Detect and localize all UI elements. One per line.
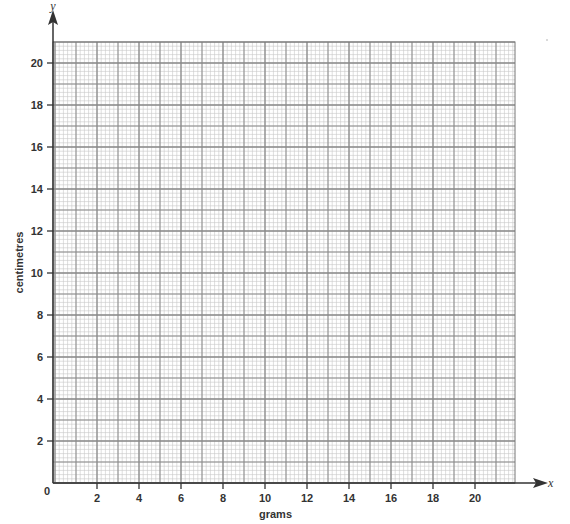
y-axis-letter: y bbox=[49, 0, 56, 13]
y-tick-label: 14 bbox=[31, 183, 44, 195]
x-tick-label: 4 bbox=[136, 492, 143, 504]
origin-label: 0 bbox=[44, 485, 50, 497]
y-tick-label: 10 bbox=[31, 267, 43, 279]
axes bbox=[48, 10, 548, 488]
y-tick-label: 2 bbox=[37, 435, 43, 447]
x-ticks: 2468101214161820 bbox=[94, 483, 481, 504]
y-tick-label: 4 bbox=[37, 393, 44, 405]
y-tick-label: 8 bbox=[37, 309, 43, 321]
x-tick-label: 2 bbox=[94, 492, 100, 504]
x-tick-label: 14 bbox=[343, 492, 356, 504]
x-tick-label: 10 bbox=[259, 492, 271, 504]
graph-paper-chart: 2468101214161820 2468101214161820 0 gram… bbox=[0, 0, 570, 524]
stray-mark bbox=[546, 39, 547, 40]
y-tick-label: 20 bbox=[31, 57, 43, 69]
y-axis-title: centimetres bbox=[13, 232, 25, 294]
x-tick-label: 16 bbox=[385, 492, 397, 504]
x-axis-title: grams bbox=[259, 508, 292, 520]
minor-grid bbox=[53, 42, 515, 483]
x-tick-label: 6 bbox=[178, 492, 184, 504]
x-axis-letter: x bbox=[547, 476, 554, 490]
x-tick-label: 20 bbox=[469, 492, 481, 504]
y-ticks: 2468101214161820 bbox=[31, 57, 53, 447]
x-tick-label: 8 bbox=[220, 492, 226, 504]
y-tick-label: 6 bbox=[37, 351, 43, 363]
y-tick-label: 16 bbox=[31, 141, 43, 153]
y-tick-label: 12 bbox=[31, 225, 43, 237]
y-tick-label: 18 bbox=[31, 99, 43, 111]
x-tick-label: 12 bbox=[301, 492, 313, 504]
x-tick-label: 18 bbox=[427, 492, 439, 504]
